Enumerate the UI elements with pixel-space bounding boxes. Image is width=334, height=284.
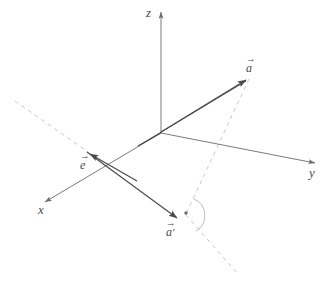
vector-diagram: z y x →a →e →a′	[0, 0, 334, 284]
right-angle-arc-icon	[194, 199, 205, 231]
vector-a-label: →a	[246, 62, 252, 74]
dashed-a-prime-extension	[186, 215, 238, 274]
y-axis-label: y	[309, 166, 315, 179]
vector-a-prime-line	[87, 152, 177, 218]
diagram-canvas	[0, 0, 334, 284]
vector-e-stroke	[90, 154, 137, 181]
coordinate-axes	[45, 12, 315, 202]
vector-a-prime-stroke	[87, 152, 177, 218]
vector-a-tail-extension	[138, 133, 161, 146]
y-axis-line	[161, 133, 315, 163]
vector-e-label: →e	[80, 159, 85, 171]
z-axis-label: z	[146, 6, 151, 19]
vector-a-line	[138, 80, 246, 146]
vector-e-line	[90, 154, 137, 181]
dashed-e-extension	[15, 101, 88, 152]
dashed-a-projection	[186, 79, 249, 214]
right-angle-dot-icon	[184, 211, 187, 214]
vector-a-stroke-lower	[138, 81, 246, 146]
dashed-guides	[15, 79, 249, 274]
x-axis-label: x	[38, 203, 44, 216]
vector-a-prime-label: →a′	[166, 226, 175, 238]
right-angle-marker	[184, 199, 205, 231]
